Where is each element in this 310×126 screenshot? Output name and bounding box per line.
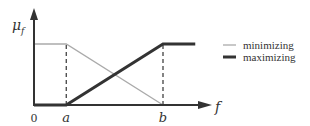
series-minimizing bbox=[34, 44, 163, 105]
x-tick-label-b: b bbox=[159, 110, 167, 125]
y-axis-label: μ bbox=[12, 17, 21, 33]
x-axis-arrow-icon bbox=[198, 101, 212, 109]
x-axis-label: f bbox=[214, 99, 223, 115]
x-tick-label-a: a bbox=[62, 110, 70, 125]
series-lines bbox=[34, 44, 195, 105]
y-axis-label-subscript: f bbox=[20, 26, 26, 36]
x-tick-labels: 0ab bbox=[31, 110, 167, 125]
chart: μ f f 0ab minimizingmaximizing bbox=[0, 0, 310, 126]
axes bbox=[30, 8, 212, 109]
x-tick-label-0: 0 bbox=[31, 110, 38, 125]
legend-label-maximizing: maximizing bbox=[243, 51, 296, 63]
y-axis-arrow-icon bbox=[30, 8, 38, 20]
series-maximizing bbox=[34, 44, 195, 105]
legend: minimizingmaximizing bbox=[223, 39, 296, 63]
legend-label-minimizing: minimizing bbox=[243, 39, 294, 51]
